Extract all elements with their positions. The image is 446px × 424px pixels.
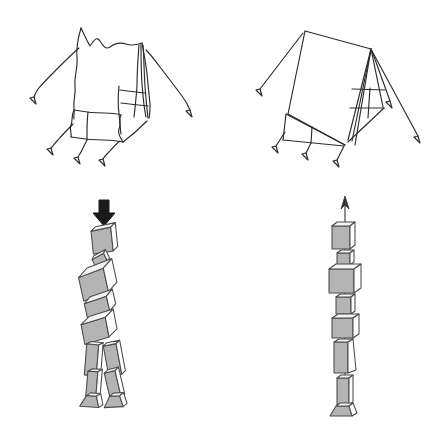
segment-head [90, 223, 118, 254]
aligned-segment-pelvis [332, 314, 359, 338]
aligned-segment-neck [337, 250, 354, 265]
aligned-segment-thorax [329, 264, 361, 293]
illustration-svg: Tent and body-segment alignment comparis… [0, 0, 446, 424]
aligned-segment-head [332, 222, 355, 249]
figure-canvas: Tent and body-segment alignment comparis… [0, 0, 446, 424]
aligned-segment-shank [337, 375, 353, 405]
aligned-segment-lumbar [336, 294, 355, 314]
aligned-segment-thigh [334, 339, 356, 373]
